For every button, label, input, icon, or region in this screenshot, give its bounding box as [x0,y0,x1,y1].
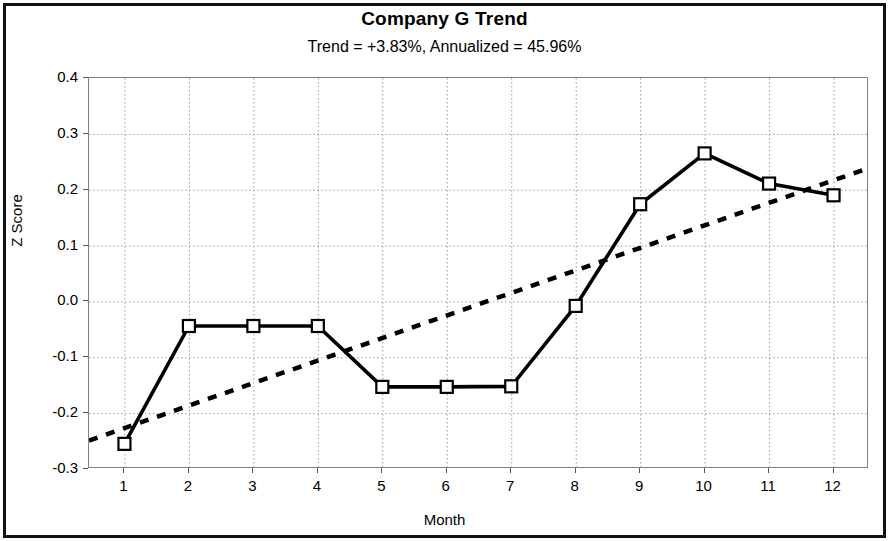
data-point-marker [505,380,517,392]
x-axis-tick-label: 7 [490,478,530,493]
x-axis-tick-label: 3 [232,478,272,493]
data-point-marker [376,381,388,393]
x-axis-tick-label: 12 [813,478,853,493]
x-axis-tick-label: 1 [103,478,143,493]
plot-canvas [89,78,869,469]
y-axis-tick-label: -0.2 [16,404,78,419]
x-axis-tick-label: 5 [361,478,401,493]
data-point-marker [634,198,646,210]
data-point-marker [828,189,840,201]
trend-line [89,168,869,441]
y-axis-tick-label: -0.3 [16,460,78,475]
x-axis-label: Month [0,511,889,528]
data-line [124,153,833,443]
y-axis-tick-label: 0.1 [16,237,78,252]
y-axis-tick-label: 0.2 [16,181,78,196]
x-axis-tick-label: 11 [748,478,788,493]
x-axis-tick-label: 2 [168,478,208,493]
data-point-marker [247,320,259,332]
y-axis-tick-label: 0.3 [16,125,78,140]
plot-area [88,77,868,468]
data-point-marker [312,320,324,332]
chart-subtitle: Trend = +3.83%, Annualized = 45.96% [0,38,889,56]
y-axis-tick-label: 0.0 [16,292,78,307]
x-axis-tick-label: 6 [426,478,466,493]
data-point-marker [183,320,195,332]
x-axis-tick-label: 8 [555,478,595,493]
data-point-marker [699,147,711,159]
chart-image: Company G Trend Trend = +3.83%, Annualiz… [0,0,889,541]
data-point-marker [570,300,582,312]
data-point-marker [118,438,130,450]
x-axis-tick-label: 4 [297,478,337,493]
chart-title: Company G Trend [0,8,889,30]
y-axis-tick-label: -0.1 [16,348,78,363]
data-point-marker [441,381,453,393]
x-axis-tick-label: 9 [619,478,659,493]
y-axis-tick-mark [83,468,88,469]
x-axis-tick-label: 10 [684,478,724,493]
y-axis-label: Z Score [8,161,25,281]
y-axis-tick-label: 0.4 [16,69,78,84]
data-point-marker [763,178,775,190]
